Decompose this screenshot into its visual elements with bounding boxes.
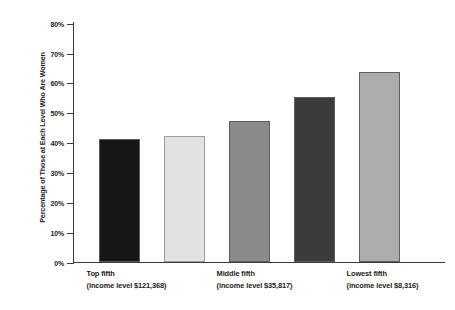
y-tick-label: 70% [51,50,64,57]
x-category-label-line1: Top fifth [87,269,115,278]
bar-4 [294,97,335,262]
y-tick-label: 20% [51,200,64,207]
bar-1 [99,139,140,262]
y-axis-title: Percentage of Those at Each Level Who Ar… [38,18,47,258]
y-tick-label: 40% [51,140,64,147]
y-tick-20 [67,203,74,204]
y-tick-70 [67,54,74,55]
x-category-label-line1: Lowest fifth [347,269,387,278]
x-category-label-2: Middle fifth(income level $35,817) [217,268,293,291]
y-tick-10 [67,233,74,234]
y-tick-50 [67,113,74,114]
y-tick-60 [67,83,74,84]
x-category-label-3: Lowest fifth(income level $8,316) [347,268,419,291]
x-category-label-line1: Middle fifth [217,269,255,278]
y-tick-30 [67,173,74,174]
x-category-label-1: Top fifth(income level $121,368) [87,268,167,291]
y-tick-label: 0% [54,260,64,267]
bar-chart: Percentage of Those at Each Level Who Ar… [0,0,455,310]
y-tick-0 [67,263,74,264]
y-tick-label: 10% [51,230,64,237]
bars-layer [76,22,445,262]
y-tick-label: 80% [51,20,64,27]
y-tick-label: 50% [51,110,64,117]
y-tick-label: 30% [51,170,64,177]
bar-3 [229,121,270,262]
y-tick-80 [67,24,74,25]
bar-2 [164,136,205,262]
x-category-label-line2: (income level $8,316) [347,280,419,292]
x-category-label-line2: (income level $35,817) [217,280,293,292]
bar-5 [359,72,400,262]
plot-area: 80%70%60%50%40%30%20%10%0% [73,22,445,263]
y-tick-40 [67,143,74,144]
x-category-label-line2: (income level $121,368) [87,280,167,292]
y-tick-label: 60% [51,80,64,87]
